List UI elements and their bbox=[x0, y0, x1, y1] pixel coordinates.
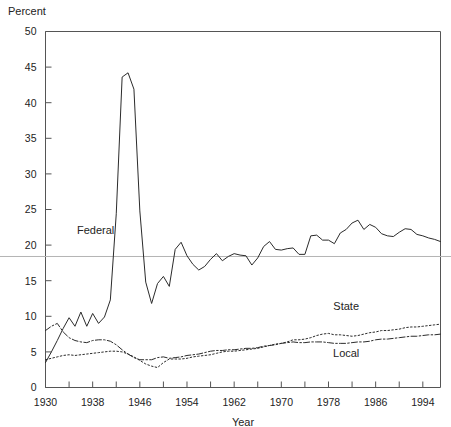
line-chart: 0510152025303540455019301938194619541962… bbox=[0, 0, 451, 427]
plot-frame bbox=[46, 32, 441, 388]
x-tick-label: 1962 bbox=[222, 396, 246, 408]
y-tick-label: 30 bbox=[25, 168, 37, 180]
x-tick-label: 1930 bbox=[34, 396, 58, 408]
series-label-state: State bbox=[333, 300, 359, 312]
x-tick-label: 1938 bbox=[81, 396, 105, 408]
y-tick-label: 50 bbox=[25, 25, 37, 37]
y-tick-label: 35 bbox=[25, 132, 37, 144]
y-tick-label: 15 bbox=[25, 275, 37, 287]
y-axis-title: Percent bbox=[8, 5, 46, 17]
y-tick-label: 40 bbox=[25, 97, 37, 109]
y-tick-label: 45 bbox=[25, 61, 37, 73]
y-tick-label: 10 bbox=[25, 310, 37, 322]
chart-container: 0510152025303540455019301938194619541962… bbox=[0, 0, 451, 427]
x-tick-label: 1994 bbox=[411, 396, 435, 408]
series-label-federal: Federal bbox=[77, 224, 114, 236]
series-label-local: Local bbox=[333, 347, 359, 359]
x-tick-label: 1954 bbox=[175, 396, 199, 408]
y-tick-label: 20 bbox=[25, 239, 37, 251]
x-tick-label: 1986 bbox=[364, 396, 388, 408]
y-tick-label: 25 bbox=[25, 203, 37, 215]
y-tick-label: 0 bbox=[31, 381, 37, 393]
x-tick-label: 1946 bbox=[128, 396, 152, 408]
x-tick-label: 1970 bbox=[270, 396, 294, 408]
series-line-federal bbox=[46, 73, 441, 363]
y-tick-label: 5 bbox=[31, 346, 37, 358]
x-tick-label: 1978 bbox=[317, 396, 341, 408]
x-axis-title: Year bbox=[232, 416, 255, 427]
series-line-local bbox=[46, 323, 441, 359]
series-line-state bbox=[46, 324, 441, 367]
